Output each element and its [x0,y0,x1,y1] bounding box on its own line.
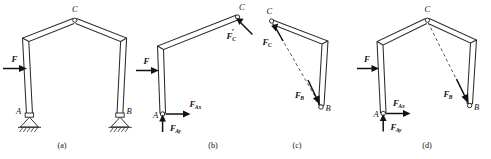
panel-c-pin-C [270,19,274,23]
panel-d-member-AC [377,19,427,114]
panel-d-force-FAx: F Ax [386,98,411,117]
panel-b-member-AC [158,15,238,114]
panel-c-pin-B [319,105,323,109]
panel-a-label-C: C [72,4,78,14]
panel-d-force-FAy-subscript: Ay [395,127,402,133]
panel-d-force-FB-subscript: B [448,94,453,100]
panel-a-label-A: A [15,106,22,116]
panel-b-label-A: A [152,110,159,120]
panel-c-force-FB-subscript: B [299,95,304,101]
panel-b-force-FAy-subscript: Ay [174,128,181,134]
panel-a: C A [3,4,132,150]
panel-d-caption: (d) [422,141,432,150]
panel-c-label-B: B [326,103,331,113]
panel-d-force-FAx-subscript: Ax [397,103,405,109]
panel-d-label-B: B [474,102,479,112]
panel-b-force-FAy: F Ay [159,115,181,134]
panel-d-pin-C [425,18,429,22]
panel-b: C A F F ′ C F Ax F Ay [136,2,253,151]
panel-b-force-FC-prime: F ′ C [226,18,253,42]
panel-a-member-AC [23,19,75,115]
panel-a-caption: (a) [57,141,66,150]
panel-b-caption: (b) [208,141,218,150]
panel-a-member-CB [76,19,127,115]
panel-b-force-FAx: F Ax [166,99,202,117]
panel-d-label-C: C [425,4,431,14]
panel-d-label-A: A [373,109,380,119]
panel-b-force-FAx-subscript: Ax [194,104,202,110]
panel-b-force-FC-subscript: C [232,36,236,42]
panel-c-force-FB: F B [294,80,320,105]
figure-root: C A [0,0,491,159]
panel-c-caption: (c) [292,141,301,150]
panel-b-force-F-label: F [143,56,150,66]
panel-d-force-FAy: F Ay [380,114,402,133]
panel-b-label-C: C [239,2,245,12]
panel-a-force-F-label: F [11,54,18,64]
panel-c: C B F C F B (c) [262,6,331,151]
panel-d-member-CB [428,19,476,105]
panel-c-label-C: C [267,6,273,16]
panel-d-force-F-label: F [363,54,370,64]
panel-d-force-FB: F B [443,79,469,104]
panel-b-force-F: F [136,56,159,74]
panel-a-support-A [18,113,41,132]
panel-d: C A B F F Ax F Ay F [357,4,479,150]
panel-c-force-FC-subscript: C [268,42,272,48]
frame-freebody-figure: C A [0,0,491,159]
panel-d-pin-B [467,103,471,107]
panel-a-pin-C [73,18,77,22]
panel-a-label-B: B [127,106,132,116]
panel-d-force-F: F [357,54,379,72]
panel-a-support-B [109,113,132,132]
